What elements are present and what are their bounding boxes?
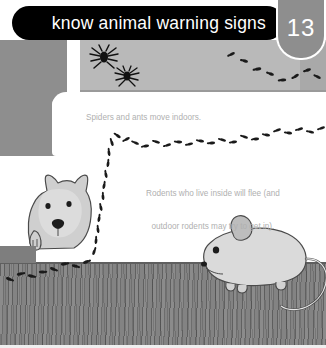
caption-rodents: Rodents who live inside will flee (and o… — [146, 166, 280, 254]
page-number-badge: 13 — [276, 0, 326, 60]
caption-rodents-line-1: Rodents who live inside will flee (and — [146, 188, 280, 199]
spider-large-icon — [90, 45, 118, 68]
mouse-foot-front-2 — [237, 285, 247, 293]
wall-edge-cover — [0, 246, 36, 263]
caption-rodents-line-2: outdoor rodents may try to get in). — [146, 221, 280, 232]
page-title: know animal warning signs — [52, 13, 266, 34]
dog-eye-left — [45, 203, 50, 209]
mouse-foot-front — [226, 283, 236, 291]
section-title-bar: know animal warning signs — [12, 6, 284, 40]
spider-small-icon — [115, 66, 139, 86]
caption-spiders: Spiders and ants move indoors. — [86, 112, 201, 123]
dog-peeking-illustration — [28, 175, 91, 250]
mouse-foot-rear — [276, 282, 287, 290]
mouse-nose — [201, 261, 207, 266]
illustration-page: Spiders and ants move indoors. Rodents w… — [0, 0, 326, 348]
page-number: 13 — [276, 14, 326, 42]
dog-eye-right — [66, 201, 71, 207]
